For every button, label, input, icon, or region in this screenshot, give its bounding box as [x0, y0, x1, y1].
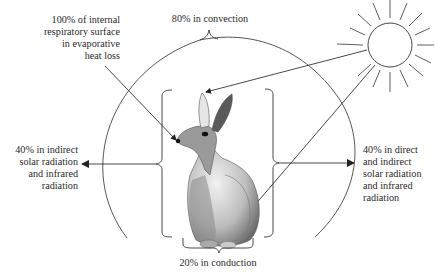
label-line: radiation — [363, 192, 435, 204]
label-line: radiation — [0, 180, 78, 192]
right-bracket — [264, 89, 279, 237]
label-line: solar radiation — [363, 168, 435, 180]
label-line: in evaporative — [24, 38, 120, 50]
label-line: and infrared — [0, 168, 78, 180]
label-line: 40% in direct — [363, 144, 435, 156]
label-line: 20% in conduction — [180, 257, 257, 268]
label-line: solar radiation — [0, 156, 78, 168]
label-line: heat loss — [24, 50, 120, 62]
direct-radiation-label: 40% in direct and indirect solar radiati… — [363, 144, 435, 204]
label-line: 40% in indirect — [0, 144, 78, 156]
convection-label: 80% in convection — [168, 13, 252, 25]
label-line: 100% of internal — [24, 14, 120, 26]
label-line: 80% in convection — [172, 13, 248, 24]
label-line: and indirect — [363, 156, 435, 168]
label-line: and infrared — [363, 180, 435, 192]
sun-ray-to-ear — [206, 50, 367, 92]
label-line: respiratory surface — [24, 26, 120, 38]
sun-ray-to-body — [254, 65, 375, 206]
evaporative-heat-loss-label: 100% of internal respiratory surface in … — [24, 14, 120, 62]
left-bracket — [156, 90, 172, 237]
indirect-radiation-label: 40% in indirect solar radiation and infr… — [0, 144, 78, 192]
conduction-label: 20% in conduction — [168, 257, 268, 269]
rabbit-illustration — [176, 93, 259, 249]
sun-icon — [337, 0, 434, 92]
